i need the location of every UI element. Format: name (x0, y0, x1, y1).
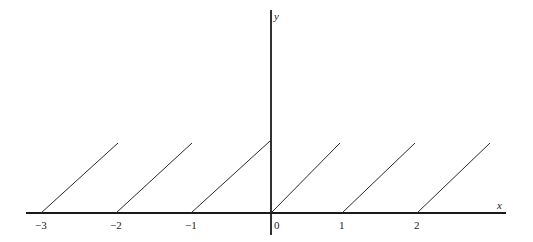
y-axis-label: y (273, 10, 279, 22)
sawtooth-plot: −3 −2 −1 0 1 2 x y (0, 0, 533, 242)
tick-label-neg3: −3 (35, 219, 47, 231)
segment-1 (41, 143, 118, 213)
segment-5 (342, 143, 415, 213)
x-axis-label: x (496, 199, 502, 211)
segment-3 (191, 141, 270, 213)
segment-4 (271, 143, 340, 213)
tick-label-2: 2 (414, 219, 420, 231)
tick-label-neg1: −1 (185, 219, 197, 231)
tick-label-1: 1 (339, 219, 345, 231)
x-tick-labels: −3 −2 −1 0 1 2 (35, 219, 420, 231)
tick-label-neg2: −2 (110, 219, 122, 231)
segment-6 (417, 143, 490, 213)
sawtooth-series (41, 141, 490, 213)
tick-label-0: 0 (274, 219, 280, 231)
segment-2 (116, 143, 192, 213)
